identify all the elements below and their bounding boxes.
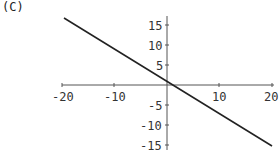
y-tick-label: 15 (148, 19, 162, 33)
line-chart: -20 -10 10 20 15 10 5 -5 -10 -15 (0, 0, 280, 152)
x-tick-label: -20 (52, 90, 74, 104)
y-tick-label: -5 (148, 99, 162, 113)
x-tick-label: 20 (264, 90, 278, 104)
y-tick-label: -10 (140, 119, 162, 133)
x-tick-label: 10 (212, 90, 226, 104)
x-tick-label: -10 (104, 90, 126, 104)
panel-label: (C) (2, 0, 24, 14)
y-tick-label: -15 (140, 139, 162, 152)
data-line (64, 18, 272, 146)
y-tick-label: 5 (156, 59, 163, 73)
chart-panel: (C) -20 -10 10 20 15 10 5 -5 -10 (0, 0, 280, 152)
y-tick-label: 10 (148, 39, 162, 53)
